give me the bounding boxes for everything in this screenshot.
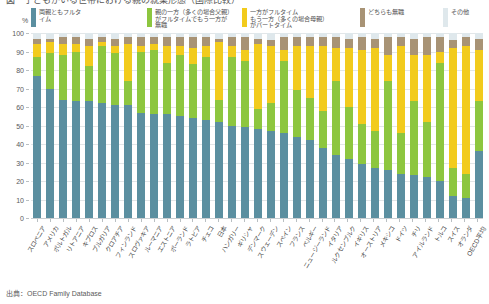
bar-エストニア[interactable] [163, 33, 171, 218]
bar-segment [111, 105, 119, 218]
bar-オーストリア[interactable] [371, 33, 379, 218]
bar-イギリス[interactable] [358, 33, 366, 218]
bar-トルコ[interactable] [436, 33, 444, 218]
bar-segment [449, 40, 457, 47]
legend-item-0[interactable]: 両親ともフルタ イム [31, 8, 81, 27]
bar-チリ[interactable] [410, 33, 418, 218]
x-axis-tick-mark [167, 219, 168, 222]
bar-segment [306, 98, 314, 141]
x-axis-tick-mark [283, 219, 284, 222]
bar-segment [358, 164, 366, 218]
bar-ギリシャ[interactable] [241, 33, 249, 218]
bar-ラトビア[interactable] [189, 33, 197, 218]
legend-item-3[interactable]: どちらも無職 [360, 8, 404, 27]
chart-legend: 両親ともフルタ イム親の一方（多くの場合父親） がフルタイムでもう一方が 無職一… [0, 8, 489, 36]
x-axis-tick-mark [50, 219, 51, 222]
bar-チェコ[interactable] [202, 33, 210, 218]
bar-segment [163, 46, 171, 63]
bar-segment [72, 101, 80, 218]
bar-segment [215, 100, 223, 122]
plot-area [31, 33, 483, 218]
bar-segment [319, 148, 327, 218]
legend-item-4[interactable]: その他 [443, 8, 469, 27]
bar-スロヴァキア[interactable] [137, 33, 145, 218]
bar-segment [449, 196, 457, 218]
bar-ルーマニア[interactable] [150, 33, 158, 218]
bar-スペイン[interactable] [280, 33, 288, 218]
bar-ブルガリア[interactable] [98, 33, 106, 218]
bar-スロベニア[interactable] [33, 33, 41, 218]
bar-アメリカ[interactable] [46, 33, 54, 218]
y-axis-tick-mark [26, 144, 29, 145]
bar-segment [332, 48, 340, 81]
y-axis-tick-mark [26, 218, 29, 219]
bar-ルクセンブルク[interactable] [345, 33, 353, 218]
bar-segment [462, 198, 470, 218]
bar-segment [189, 37, 197, 48]
bar-segment [111, 46, 119, 53]
x-axis-labels: スロベニアアメリカポルトガルリトアニアキプロスブルガリアクロアチアフィンランドス… [31, 219, 483, 283]
bar-segment [280, 37, 288, 50]
y-axis-tick-label: 70 [16, 85, 24, 92]
bar-segment [150, 114, 158, 218]
bar-segment [345, 107, 353, 159]
legend-item-2[interactable]: 一方がフルタイム もう一方（多くの場合母親） がパートタイム [242, 8, 328, 29]
bar-segment [410, 55, 418, 101]
bar-segment [319, 37, 327, 46]
bar-segment [124, 105, 132, 218]
bar-キプロス[interactable] [85, 33, 93, 218]
bar-segment [267, 131, 275, 218]
bar-ポーランド[interactable] [176, 33, 184, 218]
bar-スウェーデン[interactable] [267, 33, 275, 218]
bar-segment [436, 37, 444, 52]
bar-segment [267, 103, 275, 131]
bar-segment [267, 46, 275, 103]
bar-フィンランド[interactable] [124, 33, 132, 218]
bar-segment [358, 50, 366, 124]
legend-label: 一方がフルタイム もう一方（多くの場合母親） がパートタイム [250, 8, 328, 29]
bar-segment [85, 101, 93, 218]
bar-イタリア[interactable] [332, 33, 340, 218]
bar-segment [241, 37, 249, 50]
x-axis-tick-mark [128, 219, 129, 222]
bar-スイス[interactable] [449, 33, 457, 218]
bar-日本[interactable] [215, 33, 223, 218]
bar-segment [345, 39, 353, 48]
bar-ポルトガル[interactable] [59, 33, 67, 218]
bar-segment [176, 46, 184, 55]
bar-segment [72, 44, 80, 51]
bar-オランダ[interactable] [462, 33, 470, 218]
bar-デンマーク[interactable] [254, 33, 262, 218]
bar-segment [410, 39, 418, 56]
bar-ニュージーランド[interactable] [319, 33, 327, 218]
bar-segment [475, 101, 483, 151]
x-axis-tick-mark [218, 219, 219, 222]
bar-ベルギー[interactable] [306, 33, 314, 218]
bar-segment [436, 63, 444, 181]
bar-segment [163, 37, 171, 46]
x-axis-tick-mark [37, 219, 38, 222]
x-axis-tick-mark [425, 219, 426, 222]
legend-item-1[interactable]: 親の一方（多くの場合父親） がフルタイムでもう一方が 無職 [147, 8, 233, 29]
bar-OECD平均[interactable] [475, 33, 483, 218]
bar-フランス[interactable] [293, 33, 301, 218]
bar-segment [462, 174, 470, 198]
y-axis-tick-mark [26, 52, 29, 53]
bar-segment [423, 55, 431, 122]
bar-クロアチア[interactable] [111, 33, 119, 218]
bar-ドイツ[interactable] [397, 33, 405, 218]
bar-segment [475, 151, 483, 218]
bar-segment [423, 37, 431, 56]
y-axis-tick-label: 80 [16, 67, 24, 74]
x-axis-tick-mark [399, 219, 400, 222]
bar-ハンガリー[interactable] [228, 33, 236, 218]
bar-リトアニア[interactable] [72, 33, 80, 218]
x-axis-tick-mark [296, 219, 297, 222]
bar-アイルランド[interactable] [423, 33, 431, 218]
legend-swatch-icon [360, 8, 365, 27]
bar-メキシコ[interactable] [384, 33, 392, 218]
bar-segment [202, 37, 210, 46]
x-axis-tick-mark [63, 219, 64, 222]
bar-segment [111, 53, 119, 105]
y-axis-tick-label: 10 [16, 196, 24, 203]
